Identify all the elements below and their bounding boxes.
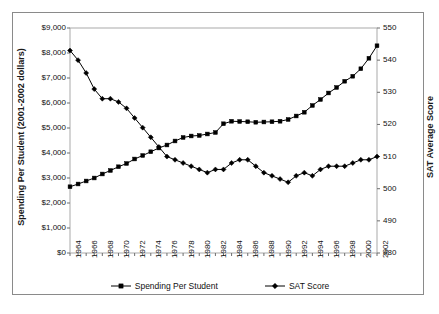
x-axis-tick-label: 1990 bbox=[284, 240, 293, 258]
x-axis-tick-label: 1976 bbox=[170, 240, 179, 258]
x-axis-tick-label: 1982 bbox=[219, 240, 228, 258]
y-axis-left-tick-label: $2,000 bbox=[8, 198, 66, 207]
legend-label: Spending Per Student bbox=[135, 281, 218, 291]
x-axis-tick-label: 1978 bbox=[187, 240, 196, 258]
legend-square-marker-icon bbox=[110, 281, 132, 291]
y-axis-left-tick-label: $0 bbox=[8, 248, 66, 257]
y-axis-left-tick-label: $5,000 bbox=[8, 123, 66, 132]
legend-item-sat-score: SAT Score bbox=[264, 281, 329, 291]
y-axis-right-tick-label: 540 bbox=[383, 55, 413, 64]
y-axis-left-tick-label: $1,000 bbox=[8, 223, 66, 232]
x-axis-tick-label: 1984 bbox=[235, 240, 244, 258]
legend-label: SAT Score bbox=[289, 281, 329, 291]
y-axis-right-tick-label: 500 bbox=[383, 184, 413, 193]
y-axis-right-tick-label: 490 bbox=[383, 216, 413, 225]
x-axis-tick-label: 1998 bbox=[348, 240, 357, 258]
x-axis-tick-label: 1986 bbox=[251, 240, 260, 258]
x-axis-tick-label: 2000 bbox=[364, 240, 373, 258]
x-axis-tick-label: 1996 bbox=[332, 240, 341, 258]
x-axis-tick-label: 1992 bbox=[300, 240, 309, 258]
y-axis-left-tick-label: $9,000 bbox=[8, 23, 66, 32]
x-axis-tick-label: 1970 bbox=[122, 240, 131, 258]
y-axis-left-tick-label: $8,000 bbox=[8, 48, 66, 57]
y-axis-left-tick-label: $6,000 bbox=[8, 98, 66, 107]
y-axis-left-tick-label: $4,000 bbox=[8, 148, 66, 157]
legend-item-spending-per-student: Spending Per Student bbox=[110, 281, 218, 291]
x-axis-tick-label: 1964 bbox=[74, 240, 83, 258]
x-axis-tick-label: 1974 bbox=[154, 240, 163, 258]
y-axis-left-tick-label: $7,000 bbox=[8, 73, 66, 82]
x-axis-tick-label: 1988 bbox=[267, 240, 276, 258]
chart-figure: Spending Per Student (2001-2002 dollars)… bbox=[0, 0, 439, 314]
x-axis-tick-label: 1994 bbox=[316, 240, 325, 258]
y-axis-right-tick-label: 550 bbox=[383, 23, 413, 32]
y-axis-right-tick-label: 530 bbox=[383, 87, 413, 96]
x-axis-tick-label: 1972 bbox=[138, 240, 147, 258]
legend-diamond-marker-icon bbox=[264, 281, 286, 291]
x-axis-tick-label: 1980 bbox=[203, 240, 212, 258]
y-axis-right-tick-label: 520 bbox=[383, 119, 413, 128]
x-axis-tick-label: 1966 bbox=[90, 240, 99, 258]
x-axis-tick-label: 2002 bbox=[381, 240, 390, 258]
chart-legend: Spending Per StudentSAT Score bbox=[0, 281, 439, 291]
y-axis-right-tick-label: 510 bbox=[383, 152, 413, 161]
y-axis-left-tick-label: $3,000 bbox=[8, 173, 66, 182]
x-axis-tick-label: 1968 bbox=[106, 240, 115, 258]
